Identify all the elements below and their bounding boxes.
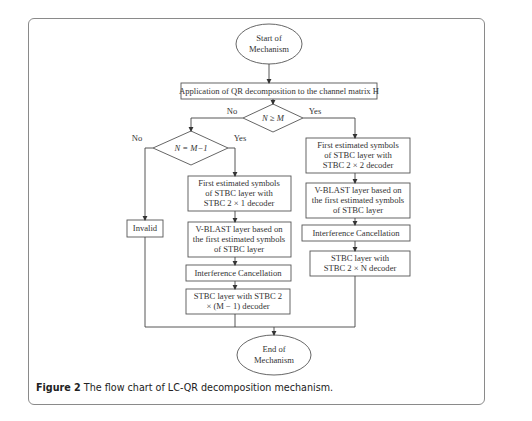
right2-line-2: the first estimated symbols <box>312 195 405 205</box>
start-line-1: Start of <box>256 33 282 43</box>
mid1-line-2: of STBC layer with <box>205 188 273 198</box>
mid1-line-1: First estimated symbols <box>198 178 280 188</box>
end-line-2: Mechanism <box>254 355 294 365</box>
cond1-no-label: No <box>227 106 238 116</box>
start-line-2: Mechanism <box>249 44 289 54</box>
right4-line-2: STBC 2 × N decoder <box>324 263 397 273</box>
mid2-line-3: of STBC layer <box>214 244 264 254</box>
invalid-text: Invalid <box>133 223 158 233</box>
mid4-line-2: × (M − 1) decoder <box>206 301 269 311</box>
qr-text: Application of QR decomposition to the c… <box>179 86 379 96</box>
mid3-text: Interference Cancellation <box>194 268 282 278</box>
cond2-no-label: No <box>132 133 143 143</box>
right1-line-1: First estimated symbols <box>317 140 399 150</box>
right3-text: Interference Cancellation <box>312 228 400 238</box>
mid2-line-2: the first estimated symbols <box>193 234 286 244</box>
end-line-1: End of <box>262 344 285 354</box>
right2-line-1: V-BLAST layer based on <box>314 185 402 195</box>
figure-caption: Figure 2 The flow chart of LC-QR decompo… <box>36 382 333 393</box>
caption-text: The flow chart of LC-QR decomposition me… <box>81 382 333 393</box>
right1-line-3: STBC 2 × 2 decoder <box>323 160 394 170</box>
cond1-yes-label: Yes <box>309 106 322 116</box>
caption-label: Figure 2 <box>36 382 81 393</box>
right2-line-3: of STBC layer <box>333 205 383 215</box>
cond2-yes-label: Yes <box>234 133 247 143</box>
cond2-text: N = M−1 <box>173 143 207 153</box>
mid2-line-1: V-BLAST layer based on <box>195 224 283 234</box>
mid1-line-3: STBC 2 × 1 decoder <box>204 198 275 208</box>
cond1-text: N ≥ M <box>261 113 285 123</box>
mid4-line-1: STBC layer with STBC 2 <box>194 291 282 301</box>
flowchart: Start of Mechanism Application of QR dec… <box>0 0 532 421</box>
right4-line-1: STBC layer with <box>331 253 390 263</box>
right1-line-2: of STBC layer with <box>324 150 392 160</box>
